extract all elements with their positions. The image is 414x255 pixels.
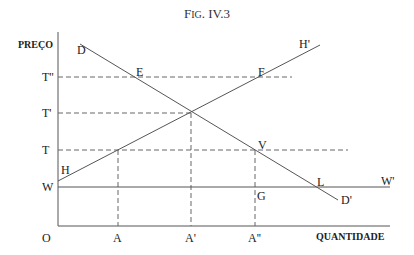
- supply-start-label: H: [61, 164, 70, 176]
- y-tick-w: W: [42, 181, 53, 193]
- demand-start-label: D: [77, 44, 86, 56]
- demand-end-label: D': [341, 194, 352, 206]
- point-e-label: E: [136, 66, 143, 78]
- point-f-label: F: [258, 66, 265, 78]
- demand-line: [80, 44, 338, 200]
- x-axis-label: QUANTIDADE: [316, 232, 384, 242]
- x-tick-a1: A': [185, 232, 196, 244]
- x-tick-a2: A'': [248, 232, 261, 244]
- x-tick-a: A: [113, 232, 122, 244]
- supply-line: [58, 45, 320, 181]
- point-v-label: V: [258, 139, 267, 151]
- point-g-label: G: [257, 190, 266, 202]
- supply-end-label: H': [299, 38, 310, 50]
- y-tick-t: T: [42, 144, 49, 156]
- y-tick-t1: T': [42, 107, 52, 119]
- y-axis-label: PREÇO: [18, 40, 53, 50]
- world-price-end-label: W': [381, 175, 395, 187]
- diagram-canvas: [0, 0, 414, 255]
- origin-label: O: [42, 232, 51, 244]
- y-tick-t2: T'': [42, 71, 54, 83]
- point-l-label: L: [317, 176, 324, 188]
